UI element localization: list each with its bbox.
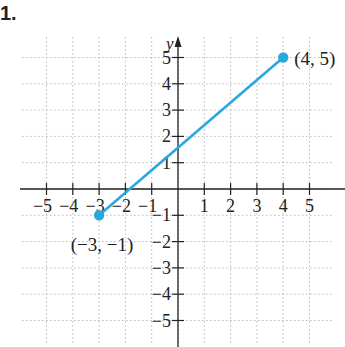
y-tick-label: −2	[152, 232, 171, 252]
y-tick-label: −1	[152, 205, 171, 225]
x-tick-label: −4	[59, 196, 78, 216]
x-tick-label: 4	[279, 196, 288, 216]
y-tick-label: 4	[162, 74, 171, 94]
x-tick-label: 5	[305, 196, 314, 216]
y-axis-arrow-icon	[175, 36, 182, 47]
x-tick-label: 1	[200, 196, 209, 216]
axes: y	[20, 34, 345, 347]
annotation-start-point: (−3, −1)	[71, 234, 134, 256]
x-tick-label: 3	[252, 196, 261, 216]
y-tick-label: −4	[152, 284, 171, 304]
x-tick-label: −5	[33, 196, 52, 216]
endpoint-dot	[94, 210, 104, 220]
y-tick-label: −5	[152, 311, 171, 331]
x-tick-label: 2	[226, 196, 235, 216]
annotation-end-point: (4, 5)	[294, 48, 335, 70]
y-tick-label: 3	[162, 100, 171, 120]
coordinate-plane: y −5−4−3−2−112345−5−4−3−2−112345 (4, 5)(…	[0, 0, 345, 347]
y-tick-label: 2	[162, 126, 171, 146]
point-annotations: (4, 5)(−3, −1)	[71, 48, 336, 257]
endpoint-dot	[278, 52, 288, 62]
x-tick-label: −2	[112, 196, 131, 216]
y-tick-label: 5	[162, 48, 171, 68]
y-tick-label: −3	[152, 258, 171, 278]
